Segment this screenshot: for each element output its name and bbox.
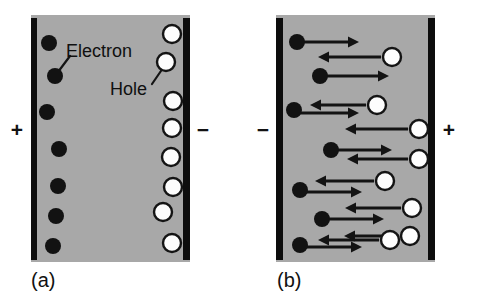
panel-caption-a: (a): [31, 270, 55, 290]
hole-marker: [164, 92, 182, 110]
annotation-label-hole: Hole: [110, 80, 147, 98]
hole-marker: [381, 231, 399, 249]
electron-marker: [45, 238, 61, 254]
electron-marker: [39, 104, 55, 120]
electron-marker: [312, 68, 328, 84]
hole-marker: [368, 96, 386, 114]
electron-marker: [323, 142, 339, 158]
electron-marker: [286, 102, 302, 118]
hole-marker: [401, 227, 419, 245]
hole-marker: [403, 199, 421, 217]
right-electrode: [428, 18, 435, 260]
hole-marker: [162, 148, 180, 166]
figure-canvas: +−(a)ElectronHole−+(b): [0, 0, 479, 302]
hole-marker: [383, 48, 401, 66]
hole-marker: [163, 25, 181, 43]
left-electrode: [31, 18, 37, 260]
hole-marker: [410, 120, 428, 138]
electron-marker: [289, 34, 305, 50]
polarity-left-panel-a: +: [6, 119, 28, 140]
electron-marker: [48, 208, 64, 224]
hole-marker: [157, 53, 175, 71]
hole-marker: [164, 178, 182, 196]
electron-marker: [41, 35, 57, 51]
electron-marker: [292, 237, 308, 253]
right-electrode: [183, 18, 190, 260]
hole-marker: [163, 234, 181, 252]
panel-caption-b: (b): [277, 270, 301, 290]
polarity-right-panel-b: +: [438, 119, 460, 140]
panel-b: [276, 15, 435, 262]
electron-marker: [47, 68, 63, 84]
electron-marker: [292, 182, 308, 198]
hole-marker: [154, 203, 172, 221]
electron-marker: [51, 141, 67, 157]
annotation-label-electron: Electron: [66, 42, 132, 60]
polarity-right-panel-a: −: [192, 119, 214, 140]
electron-marker: [314, 211, 330, 227]
hole-marker: [410, 150, 428, 168]
semiconductor-slab: [276, 15, 435, 262]
polarity-left-panel-b: −: [252, 119, 274, 140]
hole-marker: [376, 172, 394, 190]
electron-marker: [50, 178, 66, 194]
hole-marker: [163, 119, 181, 137]
left-electrode: [276, 18, 283, 260]
